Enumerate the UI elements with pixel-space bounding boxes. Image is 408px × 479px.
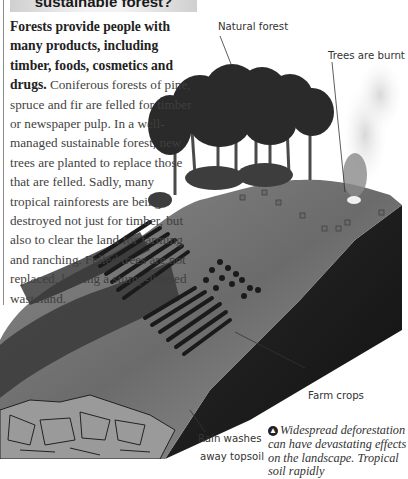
label-rain-washes: Rain washes — [198, 433, 262, 444]
label-farm-crops: Farm crops — [308, 390, 364, 401]
burning-smoke — [343, 60, 402, 204]
label-natural-forest: Natural forest — [218, 21, 288, 32]
up-arrow-icon: ▲ — [268, 426, 278, 436]
article-body: Forests provide people with many product… — [10, 17, 195, 308]
caption-text: Widespread deforestation can have devast… — [268, 423, 406, 478]
label-trees-burnt: Trees are burnt — [328, 50, 405, 61]
figure-caption: ▲Widespread deforestation can have devas… — [268, 424, 408, 479]
article-text: Coniferous forests of pine, spruce and f… — [10, 77, 192, 305]
label-rain-washes-2: away topsoil — [200, 451, 264, 462]
